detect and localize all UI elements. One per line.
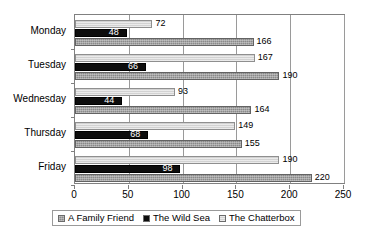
bar (75, 72, 279, 80)
family-friend-swatch (58, 215, 65, 222)
legend-label: A Family Friend (68, 212, 134, 224)
bar-value-label: 166 (257, 35, 272, 48)
category-label-wednesday: Wednesday (0, 93, 70, 105)
chart-legend: A Family FriendThe Wild SeaThe Chatterbo… (52, 210, 301, 226)
x-tick-label: 0 (71, 189, 77, 201)
y-tick-mark (71, 49, 75, 50)
category-label-friday: Friday (0, 161, 70, 173)
x-tick-label: 200 (281, 189, 298, 201)
category-axis-labels: MondayTuesdayWednesdayThursdayFriday (0, 14, 70, 184)
bar (75, 106, 251, 114)
bar (75, 140, 242, 148)
bar (75, 54, 255, 62)
legend-label: The Chatterbox (229, 212, 294, 224)
bar (75, 122, 235, 130)
bar (75, 29, 127, 37)
bar-value-label: 72 (155, 17, 165, 30)
legend-item[interactable]: The Chatterbox (219, 212, 294, 224)
value-axis-ticks: 050100150200250 (74, 185, 345, 201)
y-tick-mark (71, 117, 75, 118)
wild-sea-swatch (143, 215, 150, 222)
bar-value-label: 190 (282, 69, 297, 82)
bar-chart: MondayTuesdayWednesdayThursdayFriday 724… (0, 0, 373, 235)
bar-value-label: 167 (258, 51, 273, 64)
x-tick-label: 50 (122, 189, 133, 201)
y-tick-mark (71, 83, 75, 84)
bar (75, 174, 312, 182)
chatterbox-swatch (219, 215, 226, 222)
legend-label: The Wild Sea (153, 212, 210, 224)
x-tick-label: 150 (227, 189, 244, 201)
bar (75, 156, 279, 164)
legend-item[interactable]: A Family Friend (58, 212, 134, 224)
category-label-monday: Monday (0, 25, 70, 37)
category-label-thursday: Thursday (0, 127, 70, 139)
bar (75, 38, 254, 46)
plot-area: 72481661676619093441641496815519098220 (74, 14, 345, 184)
bar (75, 88, 175, 96)
bar-value-label: 164 (254, 103, 269, 116)
legend-item[interactable]: The Wild Sea (143, 212, 210, 224)
y-tick-mark (71, 151, 75, 152)
bar-value-label: 190 (282, 153, 297, 166)
bar-value-label: 93 (178, 85, 188, 98)
bar-value-label: 149 (238, 119, 253, 132)
bar-value-label: 155 (245, 137, 260, 150)
x-tick-label: 100 (173, 189, 190, 201)
gridline-250 (344, 15, 345, 183)
bar-value-label: 220 (315, 171, 330, 184)
category-label-tuesday: Tuesday (0, 59, 70, 71)
bar (75, 97, 122, 105)
x-tick-label: 250 (335, 189, 352, 201)
